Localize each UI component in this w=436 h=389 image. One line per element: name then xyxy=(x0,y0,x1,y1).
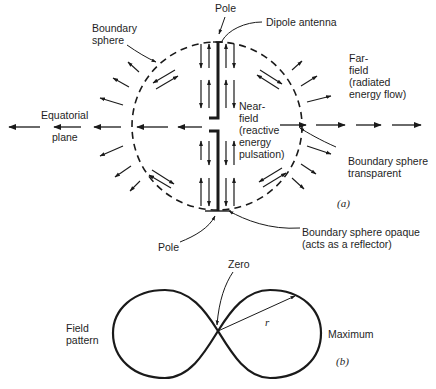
radiated-arrows xyxy=(100,61,331,191)
caption-b: (b) xyxy=(336,355,349,367)
label-boundary-sphere: Boundary sphere xyxy=(92,22,137,46)
label-zero: Zero xyxy=(228,258,250,270)
caption-a: (a) xyxy=(337,197,350,209)
label-equatorial: Equatorial xyxy=(41,109,88,121)
label-radius: r xyxy=(265,316,269,328)
field-pattern xyxy=(113,290,321,378)
equatorial-arrows xyxy=(9,125,421,127)
label-dipole-antenna: Dipole antenna xyxy=(266,16,337,28)
label-pole-top: Pole xyxy=(215,2,236,14)
label-pole-bottom: Pole xyxy=(158,241,179,253)
label-field-pattern: Field pattern xyxy=(66,322,99,346)
label-maximum: Maximum xyxy=(328,328,374,340)
label-near-field: Near- field (reactive energy pulsation) xyxy=(239,100,285,160)
leader-lines xyxy=(127,17,336,325)
label-boundary-transparent: Boundary sphere transparent xyxy=(348,155,428,179)
label-boundary-opaque: Boundary sphere opaque (acts as a reflec… xyxy=(302,226,420,250)
label-far-field: Far- field (radiated energy flow) xyxy=(349,52,406,100)
label-plane: plane xyxy=(52,131,78,143)
